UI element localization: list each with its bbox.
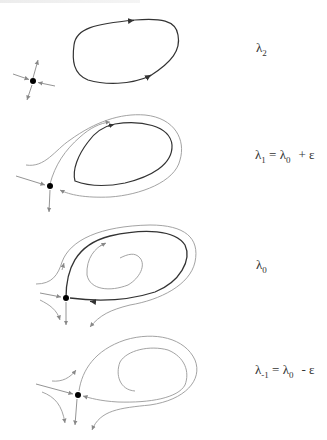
epsilon-symbol: ε <box>309 362 314 377</box>
panel-lambda1 <box>16 115 182 212</box>
saddle-point-4 <box>75 392 81 398</box>
label-lambda2: λ2 <box>256 40 267 58</box>
minus-sign: - <box>301 362 305 377</box>
label-lambda1: λ1 = λ0+ ε <box>255 147 315 165</box>
lambda-subscript: 0 <box>262 265 267 275</box>
lambda-subscript: 1 <box>261 155 266 165</box>
saddle-point-2 <box>47 183 53 189</box>
label-lambda0: λ0 <box>256 257 267 275</box>
equals-sign: = <box>269 147 276 162</box>
panel-lambda-1 <box>36 336 197 430</box>
saddle-point-1 <box>13 60 55 100</box>
saddle-point-3 <box>63 295 69 301</box>
panel-lambda2 <box>13 19 179 100</box>
lambda-subscript: -1 <box>261 370 269 380</box>
panel-lambda0 <box>36 225 196 327</box>
plus-sign: + <box>298 147 305 162</box>
label-lambda-1: λ-1 = λ0- ε <box>255 362 315 380</box>
lambda-subscript: 0 <box>289 370 294 380</box>
limit-cycle <box>73 19 178 83</box>
epsilon-symbol: ε <box>309 147 314 162</box>
lambda-subscript: 0 <box>286 155 291 165</box>
lambda-subscript: 2 <box>262 48 267 58</box>
equals-sign: = <box>272 362 279 377</box>
